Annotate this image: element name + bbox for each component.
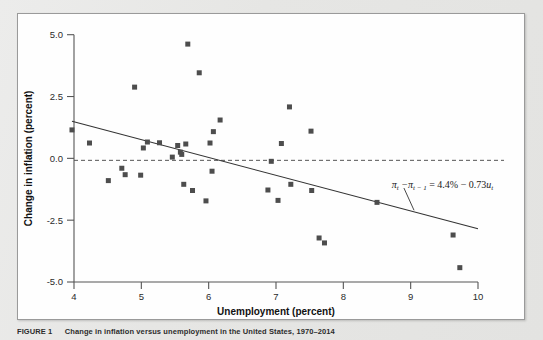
x-axis-tick-label: 6 bbox=[206, 291, 211, 302]
data-point bbox=[87, 141, 92, 146]
data-point bbox=[141, 145, 146, 150]
x-axis-tick-label: 5 bbox=[139, 291, 144, 302]
y-axis-title: Change in inflation (percent) bbox=[23, 91, 34, 227]
data-point bbox=[183, 142, 188, 147]
data-point bbox=[218, 118, 223, 123]
x-axis-title: Unemployment (percent) bbox=[217, 306, 335, 317]
data-point bbox=[179, 152, 184, 157]
y-axis-tick-label: 5.0 bbox=[50, 29, 63, 40]
y-axis-tick-label: -2.5 bbox=[47, 215, 63, 226]
regression-equation: πt −πt − 1 = 4.4% − 0.73ut bbox=[392, 179, 495, 193]
data-point bbox=[287, 104, 292, 109]
data-point bbox=[145, 140, 150, 145]
x-axis-tick-label: 7 bbox=[273, 291, 278, 302]
data-point bbox=[138, 173, 143, 178]
data-point bbox=[322, 240, 327, 245]
data-point bbox=[123, 172, 128, 177]
data-point bbox=[210, 169, 215, 174]
data-point bbox=[375, 200, 380, 205]
data-point bbox=[211, 129, 216, 134]
regression-line bbox=[72, 121, 478, 229]
data-point bbox=[185, 42, 190, 47]
x-axis-tick-label: 4 bbox=[71, 291, 76, 302]
data-point bbox=[181, 182, 186, 187]
data-point bbox=[119, 166, 124, 171]
y-axis-tick-label: 0.0 bbox=[50, 153, 63, 164]
data-point bbox=[457, 265, 462, 270]
y-axis-tick-label: 2.5 bbox=[50, 91, 63, 102]
data-point bbox=[265, 188, 270, 193]
data-point bbox=[197, 70, 202, 75]
data-point bbox=[279, 141, 284, 146]
x-axis-tick-label: 8 bbox=[341, 291, 346, 302]
figure-root: 5.02.50.0-2.5-5.045678910Unemployment (p… bbox=[0, 0, 543, 340]
data-point bbox=[170, 155, 175, 160]
data-point bbox=[288, 182, 293, 187]
y-axis-tick-label: -5.0 bbox=[47, 276, 63, 287]
data-point bbox=[106, 178, 111, 183]
x-axis-tick-label: 10 bbox=[473, 291, 484, 302]
data-point bbox=[208, 141, 213, 146]
data-point bbox=[309, 188, 314, 193]
data-point bbox=[309, 129, 314, 134]
data-point bbox=[157, 140, 162, 145]
scatter-plot: 5.02.50.0-2.5-5.045678910Unemployment (p… bbox=[18, 14, 525, 320]
x-axis-tick-label: 9 bbox=[408, 291, 413, 302]
data-point bbox=[203, 198, 208, 203]
figure-caption-label: FIGURE 1 bbox=[17, 327, 52, 336]
figure-caption: FIGURE 1 Change in inflation versus unem… bbox=[17, 327, 525, 336]
data-point bbox=[269, 159, 274, 164]
data-point bbox=[190, 188, 195, 193]
data-point bbox=[132, 85, 137, 90]
data-point bbox=[451, 233, 456, 238]
data-point bbox=[317, 235, 322, 240]
chart-panel: 5.02.50.0-2.5-5.045678910Unemployment (p… bbox=[17, 13, 525, 320]
data-point bbox=[175, 143, 180, 148]
figure-caption-text: Change in inflation versus unemployment … bbox=[65, 327, 335, 336]
data-point bbox=[276, 198, 281, 203]
data-point bbox=[69, 127, 74, 132]
